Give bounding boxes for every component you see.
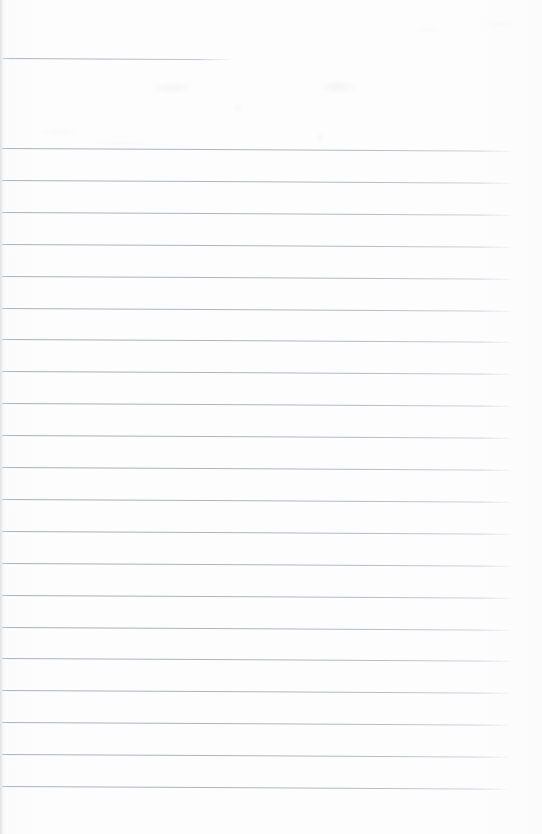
rule-line — [2, 722, 510, 726]
rule-line — [2, 499, 513, 503]
rule-line — [2, 212, 513, 216]
rule-line — [2, 435, 513, 439]
rule-line — [2, 403, 513, 407]
rule-line — [2, 563, 513, 567]
rule-line — [2, 754, 509, 758]
rule-line — [2, 690, 511, 694]
rule-line — [2, 148, 513, 152]
rule-line — [2, 276, 513, 280]
rule-line — [2, 786, 508, 790]
rule-line — [2, 308, 513, 312]
rule-line — [2, 627, 512, 631]
rule-line — [2, 531, 513, 535]
rule-line — [2, 180, 513, 184]
header-rule-line — [3, 58, 232, 60]
rule-line — [2, 244, 513, 248]
rule-line — [2, 658, 512, 662]
rule-line — [2, 467, 513, 471]
rule-line — [2, 339, 513, 343]
rule-line — [2, 371, 513, 375]
scanned-page — [0, 0, 542, 834]
ruled-lines-layer — [0, 0, 542, 834]
rule-line — [2, 595, 513, 599]
